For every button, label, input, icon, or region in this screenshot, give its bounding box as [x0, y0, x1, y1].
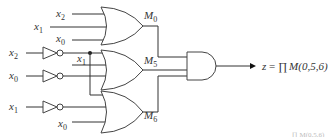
output-arrow — [216, 63, 256, 69]
or-gate-m5 — [72, 50, 143, 90]
input-label-m6-x0: x0 — [57, 117, 67, 132]
gate-label-m5: M5 — [143, 54, 157, 69]
inverter-label-x2: x2 — [8, 46, 18, 61]
output-expression: z = ∏M(0,5,6) — [261, 60, 328, 73]
input-label-x1: x1 — [33, 20, 43, 35]
input-label-x0: x0 — [55, 32, 65, 47]
not-gate-x1 — [26, 101, 108, 113]
inverter-label-x1: x1 — [8, 100, 18, 115]
gate-label-m6: M6 — [143, 109, 157, 124]
not-gate-x0 — [26, 70, 108, 82]
cropped-text-fragment: ∏ M(0,5,6) — [292, 131, 325, 137]
and-gate — [187, 52, 216, 80]
or-gate-m6 — [72, 91, 143, 133]
input-label-x2: x2 — [55, 7, 65, 22]
inverter-label-x0: x0 — [8, 69, 18, 84]
wire-m0-to-and — [143, 26, 187, 57]
logic-circuit-diagram: x2 x1 x0 M0 x2 x0 x1 x1 M5 x0 M6 — [0, 0, 335, 137]
wire-m6-to-and — [143, 76, 187, 112]
gate-label-m0: M0 — [143, 9, 157, 24]
not-gate-x2 — [26, 47, 108, 59]
